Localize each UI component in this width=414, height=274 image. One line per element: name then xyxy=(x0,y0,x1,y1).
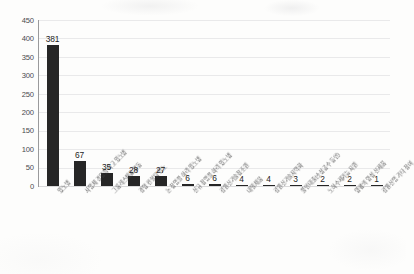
bar xyxy=(209,184,221,186)
y-axis-tick-label: 300 xyxy=(0,71,34,80)
bar xyxy=(263,185,275,186)
gridline xyxy=(39,131,390,132)
y-axis-tick-label: 400 xyxy=(0,34,34,43)
y-axis-tick-label: 200 xyxy=(0,108,34,117)
y-axis-tick-label: 450 xyxy=(0,16,34,25)
bar-value-label: 381 xyxy=(39,34,67,44)
bar-value-label: 35 xyxy=(93,162,121,172)
y-axis-tick-label: 100 xyxy=(0,145,34,154)
bar xyxy=(290,185,302,186)
y-axis-tick-label: 150 xyxy=(0,126,34,135)
bar xyxy=(182,184,194,186)
y-axis-tick-label: 250 xyxy=(0,90,34,99)
y-axis-tick-label: 0 xyxy=(0,182,34,191)
bar-value-label: 27 xyxy=(147,165,175,175)
bar-value-label: 28 xyxy=(120,165,148,175)
bar xyxy=(344,185,356,186)
y-axis-tick-label: 350 xyxy=(0,53,34,62)
gridline xyxy=(39,38,390,39)
bar-value-label: 67 xyxy=(66,150,94,160)
gridline xyxy=(39,20,390,21)
bar xyxy=(317,185,329,186)
bar xyxy=(74,161,86,186)
y-axis-tick-label: 50 xyxy=(0,163,34,172)
bar xyxy=(236,185,248,186)
bar xyxy=(371,185,383,186)
gridline xyxy=(39,112,390,113)
gridline xyxy=(39,57,390,58)
bar xyxy=(47,45,59,186)
gridline xyxy=(39,75,390,76)
gridline xyxy=(39,94,390,95)
